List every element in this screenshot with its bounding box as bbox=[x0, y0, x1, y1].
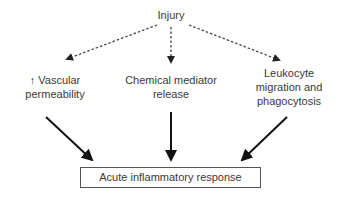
acute-inflammatory-response-box: Acute inflammatory response bbox=[80, 167, 261, 188]
leukocyte-label-line-1: Leukocyte bbox=[240, 66, 338, 80]
diagram-canvas: Injury ↑ Vascular permeability Chemical … bbox=[0, 0, 339, 203]
dashed-arrow-to-vascular bbox=[67, 25, 157, 59]
vascular-label-line-2: permeability bbox=[6, 87, 104, 101]
leukocyte-migration-node: Leukocyte migration and phagocytosis bbox=[240, 66, 338, 108]
dashed-arrow-to-leukocyte bbox=[189, 25, 279, 60]
solid-arrow-from-leukocyte bbox=[242, 117, 287, 160]
outcome-label: Acute inflammatory response bbox=[99, 171, 241, 183]
vascular-label-line-1: ↑ Vascular bbox=[6, 73, 104, 87]
leukocyte-label-line-2: migration and bbox=[240, 80, 338, 94]
chemical-label-line-2: release bbox=[112, 87, 230, 101]
solid-arrow-from-vascular bbox=[46, 117, 92, 160]
chemical-mediator-node: Chemical mediator release bbox=[112, 73, 230, 101]
injury-label: Injury bbox=[147, 8, 195, 22]
injury-node: Injury bbox=[147, 8, 195, 22]
vascular-permeability-node: ↑ Vascular permeability bbox=[6, 73, 104, 101]
leukocyte-label-line-3: phagocytosis bbox=[240, 94, 338, 108]
chemical-label-line-1: Chemical mediator bbox=[112, 73, 230, 87]
